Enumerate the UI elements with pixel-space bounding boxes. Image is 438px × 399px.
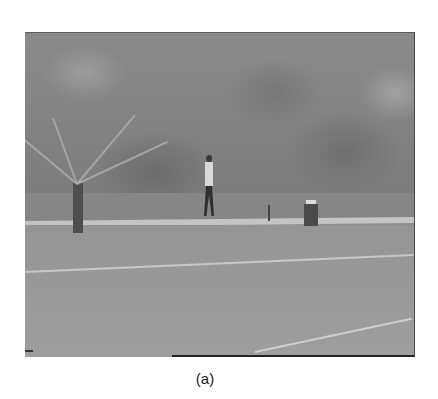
figure-bottom-border [172,355,414,357]
figure-caption: (a) [185,370,225,387]
tree-trunk [73,183,83,233]
figure-border-mark [25,350,33,352]
walking-person [203,155,215,217]
trash-bin [304,204,318,226]
figure-image [25,32,415,357]
grass-field [25,225,414,357]
post [268,205,270,221]
